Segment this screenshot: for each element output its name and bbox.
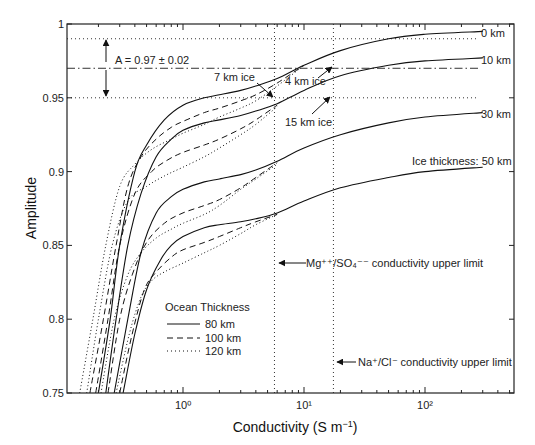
curve-ice-30km-ocean-100km — [108, 163, 277, 393]
curve-ice-30km-ocean-120km — [101, 164, 277, 393]
label-ice-0km: 0 km — [481, 27, 505, 39]
curve-ice-10km-ocean-100km — [96, 105, 278, 393]
y-tick-label: 0.9 — [49, 166, 64, 178]
y-axis-title: Amplitude — [23, 177, 39, 239]
arrow-15km-ice — [312, 97, 330, 114]
x-axis-title: Conductivity (S m−1) — [233, 419, 358, 435]
label-ice-50km: Ice thickness: 50 km — [412, 155, 512, 167]
y-tick-label: 0.75 — [43, 387, 64, 399]
legend-80km: 80 km — [205, 318, 235, 330]
legend: Ocean Thickness 80 km 100 km 120 km — [165, 301, 250, 357]
curve-ice-10km-ocean-80km — [106, 58, 483, 393]
x-tick-label: 10⁰ — [175, 399, 192, 411]
label-ice-30km: 30 km — [481, 108, 511, 120]
label-7km-ice: 7 km ice — [214, 71, 255, 83]
label-mg-limit: Mg⁺⁺/SO₄⁻⁻ conductivity upper limit — [306, 257, 483, 269]
x-tick-label: 10¹ — [296, 399, 312, 411]
axis-ticks: 0.750.80.850.90.95110⁰10¹10² — [43, 18, 514, 411]
data-curves — [80, 31, 483, 393]
legend-100km: 100 km — [205, 332, 241, 344]
legend-title: Ocean Thickness — [165, 301, 250, 313]
amplitude-conductivity-chart: 0.750.80.850.90.95110⁰10¹10² Amplitude C… — [0, 0, 535, 445]
arrow-7km-ice — [257, 83, 273, 97]
label-na-limit: Na⁺/Cl⁻ conductivity upper limit — [358, 356, 512, 368]
y-tick-label: 0.85 — [43, 239, 64, 251]
curve-ice-0km-ocean-120km — [80, 65, 304, 393]
y-tick-label: 0.8 — [49, 313, 64, 325]
label-ice-10km: 10 km — [481, 54, 511, 66]
label-15km-ice: 15 km ice — [285, 116, 332, 128]
legend-120km: 120 km — [205, 345, 241, 357]
y-tick-label: 0.95 — [43, 92, 64, 104]
y-tick-label: 1 — [58, 18, 64, 30]
amplitude-range-label: A = 0.97 ± 0.02 — [115, 54, 189, 66]
x-tick-label: 10² — [417, 399, 433, 411]
